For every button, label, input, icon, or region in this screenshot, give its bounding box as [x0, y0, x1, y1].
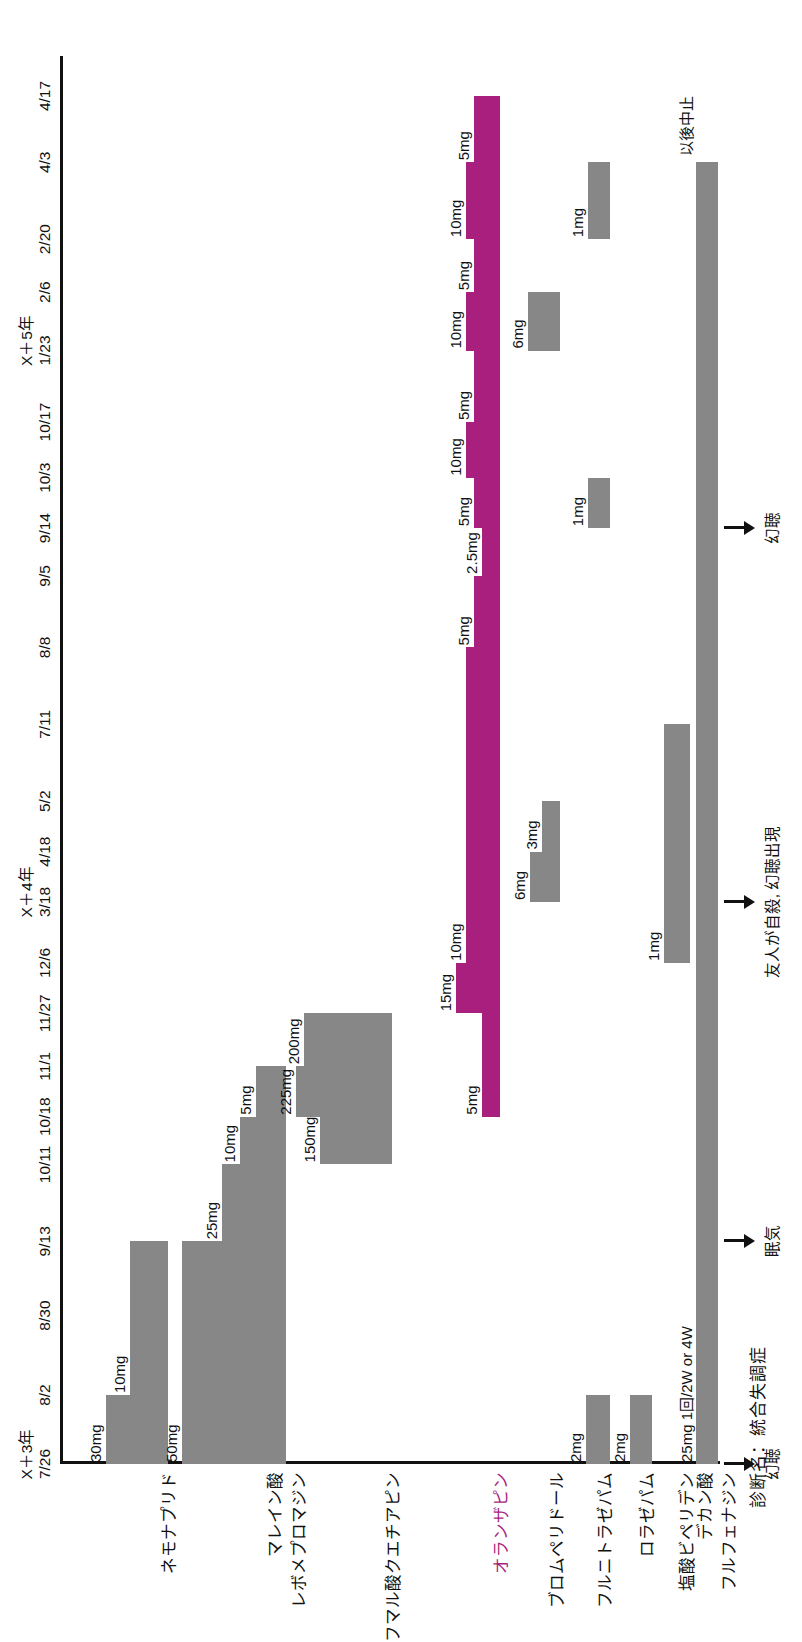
bar-olanzapine	[456, 963, 500, 1013]
bar-levomepro	[182, 1241, 286, 1464]
bar-bromperidol	[528, 292, 560, 350]
dose-label: 25mg	[203, 1202, 220, 1240]
dose-label: 30mg	[87, 1424, 104, 1462]
bar-bromperidol	[530, 852, 560, 902]
event-annotation: 友人が自殺, 幻聴出現	[760, 826, 782, 979]
x-axis-line	[60, 56, 63, 1464]
bar-bromperidol	[542, 801, 560, 851]
dose-label-discontinued: 以後中止	[675, 96, 696, 156]
bar-flunitrazepam	[586, 1395, 610, 1464]
dose-label: 2.5mg	[463, 532, 480, 574]
x-tick-label: 10/3	[36, 463, 54, 493]
dose-label: 1mg	[569, 208, 586, 237]
x-tick-label: 12/6	[36, 948, 54, 978]
row-label-quetiapine: フマル酸クエチアピン	[380, 1472, 404, 1642]
x-tick-label: 5/2	[36, 790, 54, 812]
dose-label: 15mg	[437, 974, 454, 1012]
dose-label: 5mg	[455, 391, 472, 420]
event-annotation: 幻聴	[760, 1448, 782, 1480]
bar-olanzapine	[474, 576, 500, 648]
bar-olanzapine	[466, 647, 500, 962]
diagnosis-title: 診断名：統合失調症	[744, 1346, 769, 1508]
bar-nemonapride	[130, 1241, 168, 1395]
bar-quetiapine	[296, 1066, 392, 1116]
dose-label: 1mg	[645, 932, 662, 961]
row-label-olanzapine: オランザピン	[488, 1472, 512, 1574]
dose-label: 150mg	[301, 1117, 318, 1163]
dose-label: 5mg	[237, 1086, 254, 1115]
bar-olanzapine	[474, 96, 500, 162]
event-annotation: 幻聴	[760, 512, 782, 544]
dose-label: 5mg	[455, 616, 472, 645]
x-tick-label: 4/17	[36, 81, 54, 111]
dose-label: 3mg	[523, 820, 540, 849]
dose-label: 5mg	[463, 1086, 480, 1115]
bar-olanzapine	[482, 528, 500, 576]
dose-label: 6mg	[511, 871, 528, 900]
dose-label: 225mg	[277, 1069, 294, 1115]
x-axis-year-label: X＋4年	[14, 866, 36, 917]
x-tick-label: 7/26	[36, 1449, 54, 1479]
x-tick-label: 1/23	[36, 335, 54, 365]
dose-label: 1mg	[569, 497, 586, 526]
dose-label: 5mg	[455, 497, 472, 526]
bar-olanzapine	[466, 422, 500, 478]
x-tick-label: 9/14	[36, 513, 54, 543]
x-tick-label: 4/3	[36, 152, 54, 174]
x-tick-label: 2/20	[36, 224, 54, 254]
row-label-flunitrazepam: フルニトラゼパム	[592, 1472, 616, 1608]
row-label-bromperidol: ブロムペリドール	[544, 1472, 568, 1608]
dose-label: 10mg	[447, 200, 464, 238]
bar-quetiapine	[304, 1013, 392, 1066]
row-label-fluphenazine: デカン酸フルフェナジン	[692, 1472, 740, 1591]
dose-label: 10mg	[447, 311, 464, 349]
x-axis-year-label: X＋3年	[14, 1429, 36, 1480]
dose-label: 25mg 1回/2W or 4W	[675, 1326, 696, 1462]
x-tick-label: 11/1	[36, 1052, 54, 1081]
bar-nemonapride	[106, 1395, 168, 1464]
bar-flunitrazepam	[588, 162, 610, 239]
bar-levomepro	[240, 1117, 286, 1165]
bar-fluphenazine	[696, 162, 718, 1464]
bar-olanzapine	[474, 351, 500, 423]
x-tick-label: 9/5	[36, 565, 54, 587]
bar-olanzapine	[466, 162, 500, 239]
event-annotation: 眠気	[760, 1225, 782, 1257]
row-label-nemonapride: ネモナプリド	[156, 1472, 180, 1574]
dose-label: 50mg	[163, 1424, 180, 1462]
dose-label: 10mg	[447, 438, 464, 476]
x-tick-label: 8/2	[36, 1384, 54, 1406]
x-tick-label: 9/13	[36, 1226, 54, 1256]
bar-olanzapine	[474, 239, 500, 292]
x-tick-label: 2/6	[36, 281, 54, 303]
x-tick-label: 10/11	[36, 1146, 54, 1184]
bar-levomepro	[222, 1164, 286, 1241]
dose-label: 200mg	[285, 1018, 302, 1064]
bar-lorazepam	[630, 1395, 652, 1464]
dose-label: 2mg	[611, 1433, 628, 1462]
x-tick-label: 10/17	[36, 403, 54, 442]
row-label-lorazepam: ロラゼパム	[634, 1472, 658, 1557]
dose-label: 5mg	[455, 131, 472, 160]
x-tick-label: 3/18	[36, 887, 54, 917]
bar-olanzapine	[474, 478, 500, 528]
x-axis-year-label: X＋5年	[14, 315, 36, 366]
dose-label: 10mg	[111, 1356, 128, 1394]
x-tick-label: 8/30	[36, 1300, 54, 1330]
bar-quetiapine	[320, 1117, 392, 1165]
bar-biperiden	[664, 724, 690, 963]
x-tick-label: 11/27	[36, 994, 54, 1032]
x-tick-label: 7/11	[36, 710, 54, 739]
bar-olanzapine	[482, 1013, 500, 1116]
x-tick-label: 8/8	[36, 637, 54, 659]
dose-label: 6mg	[509, 319, 526, 348]
dose-label: 10mg	[221, 1125, 238, 1163]
x-tick-label: 10/18	[36, 1097, 54, 1136]
dose-label: 5mg	[455, 261, 472, 290]
row-label-levomepro: マレイン酸レボメプロマジン	[262, 1472, 310, 1608]
bar-olanzapine	[466, 292, 500, 350]
dose-label: 10mg	[447, 923, 464, 961]
x-tick-label: 4/18	[36, 837, 54, 867]
